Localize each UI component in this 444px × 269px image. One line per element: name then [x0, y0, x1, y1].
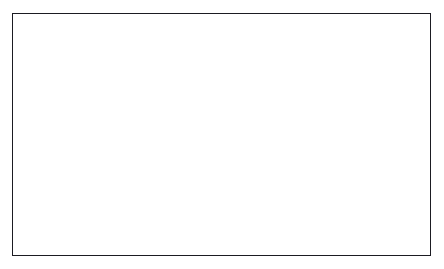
chart-outer-border — [12, 13, 431, 256]
chart-figure: 0246810121416182020022003200420052006200… — [0, 0, 444, 269]
